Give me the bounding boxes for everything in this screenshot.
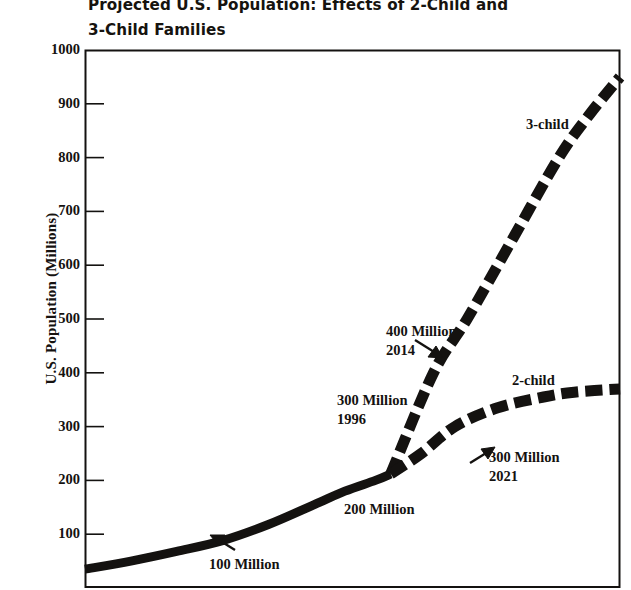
y-tick-label-200: 200	[34, 471, 80, 488]
y-tick-label-1000: 1000	[34, 41, 80, 58]
series-label-3-child: 3-child	[526, 116, 569, 133]
y-tick-label-500: 500	[34, 310, 80, 327]
annotation-400-million-2014: 400 Million 2014	[386, 322, 457, 360]
y-tick-label-400: 400	[34, 364, 80, 381]
y-tick-label-700: 700	[34, 202, 80, 219]
y-tick-label-100: 100	[34, 525, 80, 542]
annotation-200-million: 200 Million	[344, 500, 415, 519]
population-projection-chart: Projected U.S. Population: Effects of 2-…	[0, 0, 631, 590]
annotation-100-million: 100 Million	[209, 555, 280, 574]
annotation-300-million-2021: 300 Million 2021	[489, 448, 560, 486]
y-tick-label-300: 300	[34, 418, 80, 435]
chart-title: Projected U.S. Population: Effects of 2-…	[88, 0, 558, 43]
y-tick-label-800: 800	[34, 149, 80, 166]
y-tick-label-900: 900	[34, 95, 80, 112]
plot-area: 3-child 2-child 100 Million 200 Million …	[85, 50, 620, 588]
y-axis-tick-labels: 1000900800700600500400300200100	[30, 0, 80, 590]
arrow-100-million	[210, 535, 235, 550]
annotation-300-million-1996: 300 Million 1996	[337, 391, 408, 429]
series-label-2-child: 2-child	[512, 372, 555, 389]
y-tick-label-600: 600	[34, 256, 80, 273]
